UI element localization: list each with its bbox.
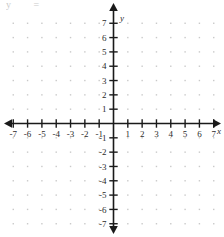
grid-dot: [184, 194, 185, 195]
grid-dot: [184, 209, 185, 210]
grid-dot: [213, 180, 214, 181]
grid-dot: [41, 51, 42, 52]
grid-dot: [141, 223, 142, 224]
grid-dot: [213, 151, 214, 152]
grid-dot: [56, 80, 57, 81]
grid-dot: [199, 23, 200, 24]
grid-dot: [70, 166, 71, 167]
grid-dot: [27, 37, 28, 38]
grid-dot: [170, 51, 171, 52]
grid-dot: [141, 37, 142, 38]
grid-dot: [41, 223, 42, 224]
grid-dot: [41, 166, 42, 167]
grid-dot: [199, 94, 200, 95]
grid-dot: [213, 23, 214, 24]
grid-dot: [56, 108, 57, 109]
grid-dot: [98, 51, 99, 52]
grid-dot: [41, 80, 42, 81]
grid-dot: [27, 194, 28, 195]
grid-dot: [184, 94, 185, 95]
y-tick-label: -1: [99, 133, 107, 143]
grid-dot: [199, 166, 200, 167]
y-tick-label: -6: [99, 205, 107, 215]
grid-dot: [170, 66, 171, 67]
x-tick-label: 4: [169, 129, 174, 139]
grid-dot: [27, 94, 28, 95]
grid-dot: [156, 223, 157, 224]
x-tick-label: -7: [10, 129, 18, 139]
y-tick-label: -3: [99, 162, 107, 172]
grid-dot: [170, 80, 171, 81]
grid-dot: [184, 51, 185, 52]
grid-dot: [27, 151, 28, 152]
grid-dot: [84, 166, 85, 167]
y-axis-down-arrow: [109, 226, 118, 234]
grid-dot: [13, 108, 14, 109]
grid-dot: [213, 51, 214, 52]
y-tick-label: -5: [99, 190, 107, 200]
grid-dot: [84, 37, 85, 38]
grid-dot: [84, 180, 85, 181]
grid-dot: [199, 223, 200, 224]
grid-dot: [170, 209, 171, 210]
x-tick-label: -3: [67, 129, 75, 139]
grid-dot: [170, 94, 171, 95]
grid-dot: [13, 180, 14, 181]
grid-dot: [141, 108, 142, 109]
grid-dot: [213, 194, 214, 195]
grid-dot: [199, 151, 200, 152]
x-axis-label: x: [216, 126, 221, 136]
grid-dot: [170, 223, 171, 224]
grid-dot: [170, 180, 171, 181]
grid-dot: [13, 80, 14, 81]
grid-dot: [127, 51, 128, 52]
grid-dot: [13, 51, 14, 52]
x-tick-label: 3: [154, 129, 159, 139]
y-tick-label: -4: [99, 176, 107, 186]
grid-dot: [199, 51, 200, 52]
grid-dot: [41, 151, 42, 152]
grid-dot: [156, 108, 157, 109]
grid-dot: [56, 23, 57, 24]
grid-dot: [13, 151, 14, 152]
grid-dot: [56, 151, 57, 152]
grid-dot: [127, 180, 128, 181]
grid-dot: [56, 66, 57, 67]
grid-dot: [213, 166, 214, 167]
grid-dot: [141, 23, 142, 24]
grid-dot: [184, 37, 185, 38]
grid-dot: [98, 23, 99, 24]
grid-dot: [127, 194, 128, 195]
grid-dot: [127, 108, 128, 109]
grid-dot: [184, 80, 185, 81]
x-tick-label: -2: [81, 129, 89, 139]
grid-dot: [70, 37, 71, 38]
grid-dot: [156, 37, 157, 38]
x-tick-label: 5: [183, 129, 188, 139]
grid-dot: [170, 194, 171, 195]
grid-dot: [170, 166, 171, 167]
grid-dot: [98, 94, 99, 95]
grid-dot: [127, 80, 128, 81]
grid-dot: [70, 80, 71, 81]
grid-dot: [98, 37, 99, 38]
y-axis-label: y: [119, 13, 124, 23]
grid-dot: [13, 223, 14, 224]
grid-dot: [141, 151, 142, 152]
grid-dot: [13, 66, 14, 67]
grid-dot: [184, 180, 185, 181]
y-tick-label: -2: [99, 147, 107, 157]
grid-dot: [70, 151, 71, 152]
grid-dot: [156, 166, 157, 167]
grid-dot: [127, 23, 128, 24]
grid-dot: [170, 151, 171, 152]
grid-dot: [170, 23, 171, 24]
grid-dot: [141, 180, 142, 181]
grid-dot: [56, 223, 57, 224]
grid-dot: [70, 180, 71, 181]
grid-dot: [56, 166, 57, 167]
grid-dot: [127, 209, 128, 210]
grid-dot: [13, 209, 14, 210]
cartesian-grid-graph: -7-6-5-4-3-2-112345677654321-1-2-3-4-5-6…: [0, 0, 224, 237]
grid-dot: [213, 209, 214, 210]
